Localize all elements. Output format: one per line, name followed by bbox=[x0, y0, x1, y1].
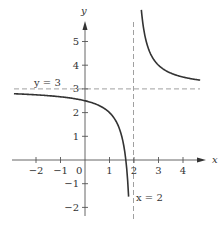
y-tick-label: 1 bbox=[73, 131, 79, 142]
tick-marks: −2−11234−2−112345 bbox=[29, 36, 187, 213]
axes bbox=[12, 21, 206, 216]
y-axis-arrow-icon bbox=[83, 21, 88, 30]
x-tick-label: −2 bbox=[29, 165, 44, 176]
hyperbola-chart: −2−11234−2−112345 x y y = 3 x = 2 0 bbox=[0, 0, 223, 227]
x-axis-arrow-icon bbox=[197, 158, 206, 163]
asymptotes bbox=[14, 22, 200, 222]
x-axis-label: x bbox=[212, 154, 218, 165]
right-branch-curve bbox=[141, 10, 200, 80]
x-tick-label: 2 bbox=[131, 165, 137, 176]
origin-label: 0 bbox=[76, 165, 82, 176]
x-tick-label: 3 bbox=[155, 165, 161, 176]
v-asymptote-label: x = 2 bbox=[136, 192, 163, 203]
y-tick-label: 4 bbox=[73, 60, 79, 71]
y-axis-label: y bbox=[80, 5, 87, 16]
y-tick-label: 2 bbox=[73, 107, 79, 118]
y-tick-label: −1 bbox=[64, 178, 79, 189]
y-tick-label: 3 bbox=[73, 83, 79, 94]
y-tick-label: 5 bbox=[73, 36, 79, 47]
h-asymptote-label: y = 3 bbox=[33, 77, 61, 88]
y-tick-label: −2 bbox=[64, 202, 79, 213]
x-tick-label: −1 bbox=[53, 165, 68, 176]
x-tick-label: 1 bbox=[106, 165, 112, 176]
x-tick-label: 4 bbox=[180, 165, 186, 176]
